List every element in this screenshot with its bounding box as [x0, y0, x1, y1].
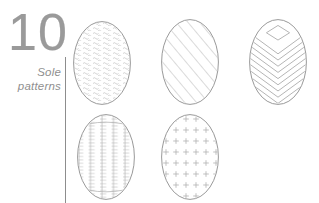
- section-number: 10: [8, 6, 66, 58]
- sole-oval-chevron-with-diamond: [249, 19, 307, 105]
- sole-oval-plus-sign-grid: [161, 114, 219, 200]
- sole-oval-vertical-bristle-lines: [77, 114, 135, 200]
- section-title: Sole patterns: [0, 66, 61, 93]
- sole-oval-diagonal-stripes: [161, 19, 219, 105]
- vertical-divider: [65, 57, 66, 203]
- section-title-line-1: Sole: [37, 66, 61, 78]
- index-block: 10 Sole patterns: [0, 0, 67, 203]
- sole-oval-wavy-dash-texture: [73, 21, 131, 105]
- sole-patterns-reference-page: 10 Sole patterns: [0, 0, 319, 203]
- section-title-line-2: patterns: [0, 80, 61, 94]
